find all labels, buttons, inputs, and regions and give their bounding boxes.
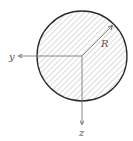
y-axis-label: y <box>8 51 15 62</box>
radius-label: R <box>100 38 109 49</box>
z-axis-label: z <box>78 127 85 138</box>
cross-section-diagram: y z R <box>0 0 133 141</box>
